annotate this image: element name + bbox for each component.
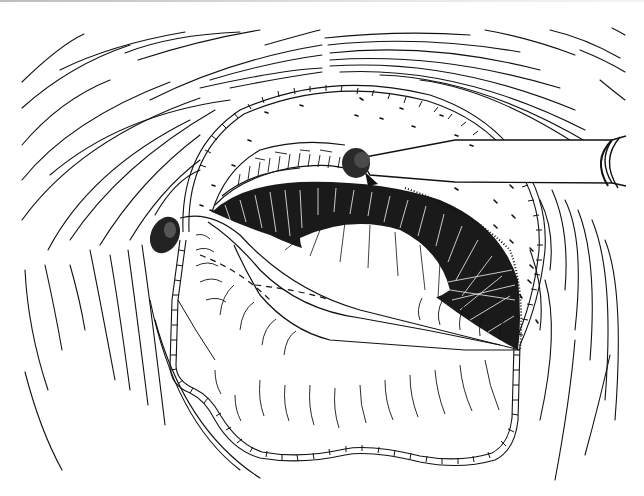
illustration-canvas bbox=[0, 0, 644, 496]
surgical-illustration bbox=[0, 0, 644, 496]
scan-top-band bbox=[0, 0, 644, 2]
instrument bbox=[360, 136, 626, 188]
left-stipple-blob bbox=[144, 212, 185, 258]
hatched-lens-region bbox=[212, 182, 521, 350]
